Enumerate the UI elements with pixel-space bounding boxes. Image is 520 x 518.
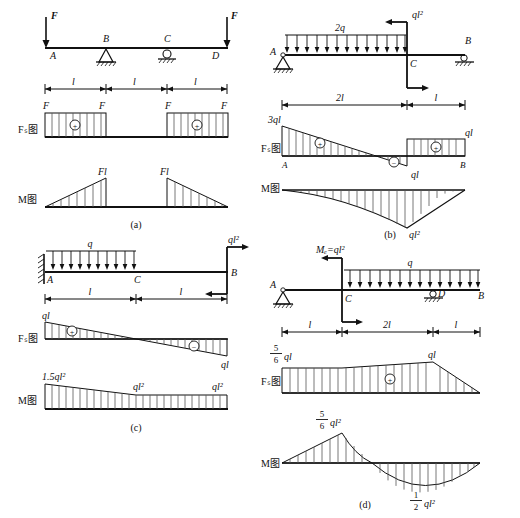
moment-value-d-peak-unit: ql² [330,417,342,428]
node-label-d-A: A [269,279,277,290]
shear-value-a-3: F [164,100,172,111]
shear-sign-a-left: + [73,122,78,131]
moment-value-d-trough-num: 1 [414,490,419,500]
load-arrowhead-a-left [43,40,50,48]
support-roller-a-C [158,50,176,63]
node-label-d-D: D [437,288,446,299]
shear-value-a-1: F [42,100,50,111]
dimension-label-a-1: l [72,76,75,87]
shear-value-d-1: 5 6 ql [270,343,292,365]
moment-value-b: ql² [409,229,421,240]
moment-value-d-peak: 5 6 ql² [316,409,342,431]
dimension-label-d-2: 2l [383,319,391,330]
panel-caption-a: (a) [130,219,141,231]
shear-value-d-1-den: 6 [274,355,279,365]
moment-value-c-1: 1.5ql² [42,371,66,382]
dimension-label-b-1: 2l [336,92,344,103]
shear-diagram-label-d: Fₛ图 [261,376,281,387]
moment-shape-d-negative [372,463,480,492]
shear-value-b-2: ql [411,169,419,180]
couple-label-d: Mₑ=ql² [315,244,345,255]
panel-caption-c: (c) [130,422,141,434]
panel-b: 2q ql² A C [260,0,520,240]
shear-value-d-2: ql [428,349,436,360]
couple-arrow-b-top [385,19,392,25]
moment-value-a-right: Fl [159,166,169,177]
node-label-a-D: D [211,50,220,61]
node-label-a-A: A [49,50,57,61]
moment-diagram-label-c: M图 [18,395,37,406]
udl-d [344,270,480,288]
dimension-label-a-3: l [194,76,197,87]
shear-diagram-label-c: Fₛ图 [18,333,38,344]
panel-a-svg: F A F D B C [0,0,260,232]
shear-sign-c-1: + [70,328,75,337]
support-roller-b-B [455,55,474,66]
node-label-d-B: B [478,290,484,301]
shear-sign-b-1: + [318,140,323,149]
couple-arrow-d-bottom [356,319,363,325]
moment-value-a-left: Fl [97,166,107,177]
moment-diagram-label-d: M图 [261,458,280,469]
panel-c-svg: A q C [0,232,260,442]
shear-shape-b-right: + [407,139,465,156]
panel-d: Mₑ=ql² q [260,240,520,518]
node-label-c-A: A [46,274,54,285]
moment-diagram-label-b: M图 [261,183,280,194]
load-label-a-right: F [230,10,238,21]
load-arrowhead-a-right [224,40,231,48]
shear-diagram-label-a: Fₛ图 [18,124,38,135]
dimension-label-d-1: l [309,319,312,330]
panel-caption-d: (d) [359,499,371,511]
node-label-a-B: B [103,33,109,44]
support-pin-a-B [96,49,116,66]
shear-value-a-4: F [220,100,228,111]
shear-sign-b-2: − [392,159,397,168]
moment-shape-b [282,190,465,228]
udl-label-d: q [408,257,413,268]
node-label-b-A: A [269,46,277,57]
moment-shape-d-positive [282,433,372,463]
shear-node-b-A: A [281,160,288,170]
shear-sign-a-right: + [195,122,200,131]
shear-diagram-label-b: Fₛ图 [261,143,281,154]
panel-d-svg: Mₑ=ql² q [260,240,520,518]
dimension-line-c [45,294,227,304]
udl-c [46,251,136,270]
dimension-line-d [282,327,480,337]
moment-value-d-trough-den: 2 [414,502,419,512]
node-label-c-B: B [231,267,237,278]
node-label-a-C: C [164,33,171,44]
shear-value-b-3: ql [465,127,473,138]
shear-value-d-1-unit: ql [284,351,292,362]
moment-diagram-label-a: M图 [18,194,37,205]
moment-shape-a-left [45,178,106,207]
support-fixed-c-A [38,254,44,284]
shear-block-a-right: + [167,113,228,137]
couple-arrow-b-bottom [422,85,429,91]
moment-value-d-trough: 1 2 ql² [410,490,436,512]
panel-c: A q C [0,232,260,442]
node-label-d-C: C [345,293,352,304]
couple-arrow-c-top [242,244,249,250]
udl-b [285,35,408,53]
shear-shape-b-left: + − [282,126,407,168]
dimension-line-b [282,100,465,110]
node-label-c-C: C [134,274,141,285]
dimension-label-c-2: l [180,286,183,297]
dimension-label-d-3: l [455,319,458,330]
load-label-a-left: F [50,10,58,21]
shear-value-c-1: ql [42,310,50,321]
udl-label-b: 2q [335,22,345,33]
shear-value-a-2: F [98,100,106,111]
dimension-label-b-2: l [435,92,438,103]
shear-sign-d: + [388,376,393,385]
shear-sign-b-3: + [434,144,439,153]
couple-label-c: ql² [228,234,240,245]
shear-node-b-B: B [460,160,466,170]
moment-value-c-3: ql² [212,381,224,392]
panel-a: F A F D B C [0,0,260,232]
moment-value-d-peak-den: 6 [320,421,325,431]
couple-c [208,247,246,294]
panel-b-svg: 2q ql² A C [260,0,520,240]
